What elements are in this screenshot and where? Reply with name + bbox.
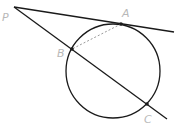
label-C: C [144,113,152,126]
label-A: A [121,7,130,20]
secant-line-PBC [14,7,167,119]
chord-AB-dashed [72,24,121,49]
label-B: B [57,47,65,60]
point-B-dot [70,47,74,51]
point-C-dot [145,102,149,106]
tangent-secant-diagram: P A B C [0,0,185,130]
label-P: P [2,11,9,24]
point-A-dot [119,22,123,26]
